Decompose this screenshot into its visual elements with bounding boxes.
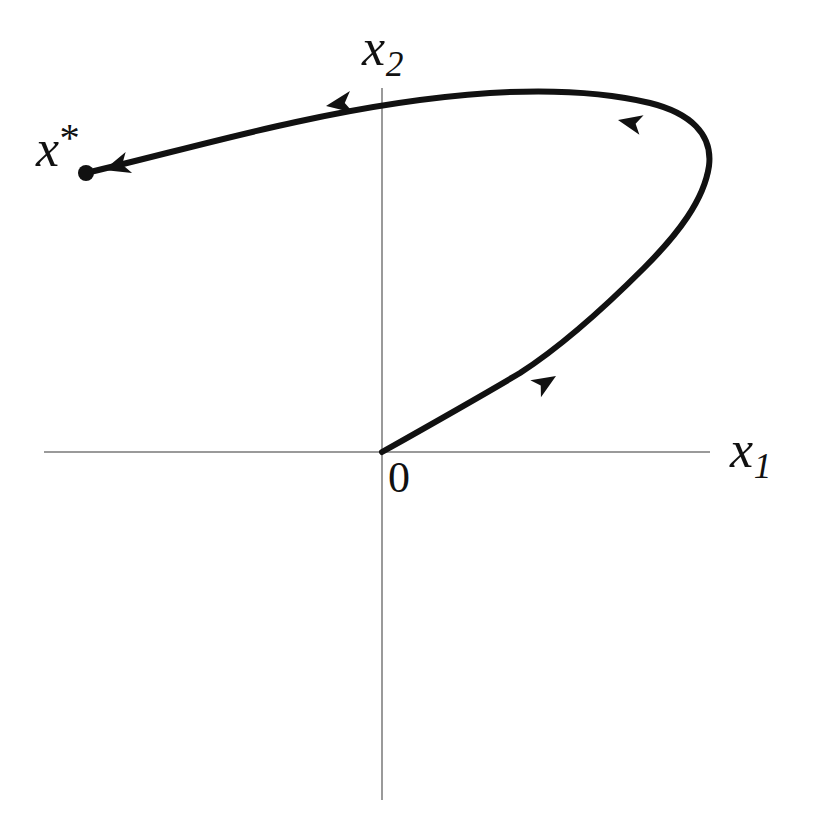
y-axis-label-base: x xyxy=(362,19,385,76)
trajectory-curve xyxy=(90,92,709,452)
plot-canvas xyxy=(0,0,823,838)
x-axis-label: x1 xyxy=(730,424,771,485)
optimum-point-marker xyxy=(78,165,94,181)
direction-arrow-ascending xyxy=(530,368,561,398)
y-axis-label: x2 xyxy=(362,22,403,83)
axes-group xyxy=(44,88,710,800)
trajectory-figure: x2 x1 x* 0 xyxy=(0,0,823,838)
trajectory-group xyxy=(78,91,709,452)
origin-label: 0 xyxy=(388,456,410,500)
optimum-label-superscript: * xyxy=(59,115,79,160)
x-axis-label-base: x xyxy=(730,421,753,478)
optimum-label-base: x xyxy=(36,120,59,177)
direction-arrow-upper-right xyxy=(616,110,644,135)
x-axis-label-subscript: 1 xyxy=(754,446,772,486)
optimum-label: x* xyxy=(36,118,80,175)
y-axis-label-subscript: 2 xyxy=(386,44,404,84)
